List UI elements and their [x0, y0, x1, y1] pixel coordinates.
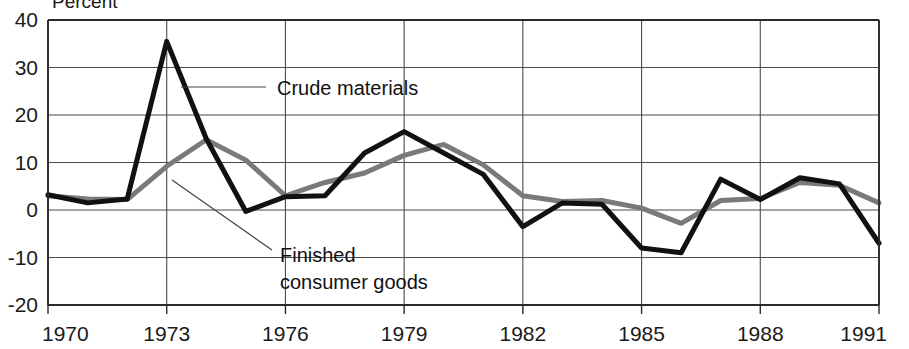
- chart-figure: Percent403020100-10-20197019731976197919…: [0, 0, 909, 349]
- data-series-line: [48, 41, 879, 252]
- y-tick-label: 40: [15, 8, 38, 31]
- data-series-line: [48, 140, 879, 224]
- y-tick-label: 30: [15, 56, 38, 79]
- y-tick-label: 0: [26, 198, 38, 221]
- x-tick-label: 1979: [381, 322, 428, 345]
- x-tick-label: 1985: [618, 322, 665, 345]
- y-tick-label: -10: [8, 246, 38, 269]
- x-tick-label: 1991: [840, 322, 887, 345]
- y-tick-label: 10: [15, 151, 38, 174]
- x-tick-label: 1970: [42, 322, 89, 345]
- x-tick-label: 1982: [499, 322, 546, 345]
- annotation-label-crude-materials: Crude materials: [277, 77, 418, 99]
- annotation-label-finished-consumer-goods-line2: consumer goods: [280, 271, 428, 293]
- y-tick-label: 20: [15, 103, 38, 126]
- annotation-leader-finished-consumer-goods: [172, 180, 272, 250]
- x-tick-label: 1973: [143, 322, 190, 345]
- x-tick-label: 1976: [262, 322, 309, 345]
- annotation-label-finished-consumer-goods-line1: Finished: [280, 244, 356, 266]
- y-axis-title: Percent: [52, 0, 118, 12]
- x-tick-label: 1988: [737, 322, 784, 345]
- y-tick-label: -20: [8, 293, 38, 316]
- line-chart: Percent403020100-10-20197019731976197919…: [0, 0, 909, 349]
